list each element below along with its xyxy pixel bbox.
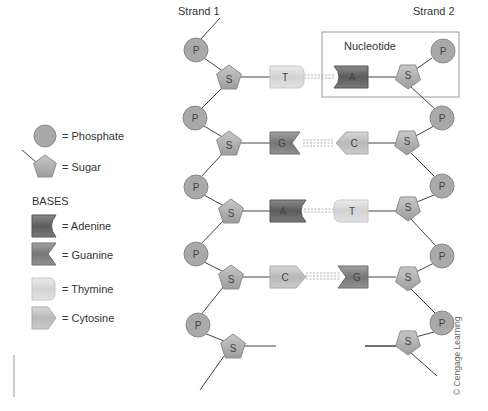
sugar-icon: S — [217, 65, 242, 89]
cytosine-icon: C — [270, 266, 306, 288]
strand2-label: Strand 2 — [413, 5, 455, 17]
legend-sugar: = Sugar — [22, 150, 101, 177]
phosphate-icon: P — [430, 311, 454, 335]
svg-text:A: A — [349, 72, 356, 83]
svg-text:P: P — [439, 113, 446, 124]
sugar-icon: S — [221, 334, 246, 358]
svg-text:S: S — [405, 202, 412, 213]
thymine-icon: T — [270, 66, 304, 88]
sugar-icon: S — [396, 197, 421, 221]
svg-text:S: S — [228, 208, 235, 219]
svg-text:S: S — [230, 343, 237, 354]
legend-phosphate: = Phosphate — [34, 125, 124, 147]
svg-text:= Phosphate: = Phosphate — [62, 130, 124, 142]
svg-text:P: P — [440, 46, 447, 57]
sugar-icon: S — [219, 265, 244, 289]
svg-text:S: S — [404, 136, 411, 147]
svg-text:S: S — [228, 274, 235, 285]
thymine-icon: T — [334, 200, 368, 222]
guanine-icon: G — [270, 132, 300, 154]
svg-text:P: P — [195, 320, 202, 331]
strand1-phosphates: P P P P P — [183, 38, 210, 337]
sugar-icon: S — [396, 65, 421, 89]
svg-text:S: S — [405, 336, 412, 347]
svg-text:= Adenine: = Adenine — [62, 220, 111, 232]
legend-guanine: = Guanine — [32, 243, 113, 265]
legend-cytosine: = Cytosine — [32, 307, 114, 329]
svg-text:P: P — [192, 113, 199, 124]
hydrogen-bonds — [303, 75, 340, 279]
sugar-icon: S — [396, 267, 421, 291]
bases-heading: BASES — [32, 195, 69, 207]
sugar-icon: S — [396, 331, 421, 355]
phosphate-icon: P — [183, 106, 207, 130]
svg-text:G: G — [353, 272, 361, 283]
svg-text:A: A — [280, 206, 287, 217]
svg-text:T: T — [282, 72, 288, 83]
phosphate-icon: P — [430, 174, 454, 198]
svg-text:= Cytosine: = Cytosine — [62, 312, 114, 324]
sugar-icon — [34, 155, 57, 177]
svg-text:T: T — [349, 206, 355, 217]
adenine-icon: A — [270, 200, 306, 222]
strand1-sugars: S S S S S — [217, 65, 246, 358]
base-pair-3: A T — [270, 200, 368, 222]
phosphate-icon: P — [184, 242, 208, 266]
svg-text:S: S — [405, 70, 412, 81]
nucleotide-label: Nucleotide — [344, 40, 396, 52]
svg-text:S: S — [226, 140, 233, 151]
svg-text:= Sugar: = Sugar — [62, 161, 101, 173]
adenine-icon — [32, 215, 56, 237]
svg-text:C: C — [281, 272, 288, 283]
sugar-icon: S — [219, 199, 244, 223]
strand2-phosphates: P P P P P — [430, 39, 455, 335]
phosphate-icon: P — [184, 175, 208, 199]
svg-text:P: P — [193, 45, 200, 56]
strand2-backbone — [365, 58, 437, 376]
cytosine-icon — [32, 307, 56, 329]
svg-text:P: P — [439, 181, 446, 192]
svg-text:G: G — [278, 138, 286, 149]
legend-thymine: = Thymine — [32, 278, 113, 300]
svg-text:P: P — [439, 318, 446, 329]
base-pair-4: C G — [270, 266, 368, 288]
svg-text:= Thymine: = Thymine — [62, 283, 113, 295]
sugar-icon: S — [395, 131, 420, 155]
phosphate-icon: P — [430, 106, 454, 130]
cytosine-icon: C — [336, 132, 368, 154]
guanine-icon — [32, 243, 56, 265]
phosphate-icon: P — [430, 244, 454, 268]
phosphate-icon: P — [186, 313, 210, 337]
svg-text:C: C — [350, 138, 357, 149]
adenine-icon: A — [334, 66, 368, 88]
phosphate-icon — [34, 125, 56, 147]
svg-text:P: P — [439, 251, 446, 262]
svg-text:S: S — [226, 74, 233, 85]
strand1-label: Strand 1 — [178, 5, 220, 17]
legend-adenine: = Adenine — [32, 215, 111, 237]
phosphate-icon: P — [184, 38, 208, 62]
base-pair-1: T A — [270, 66, 368, 88]
svg-text:= Guanine: = Guanine — [62, 249, 113, 261]
sugar-icon: S — [217, 131, 242, 155]
dna-diagram: Strand 1 Strand 2 Nucleotide — [0, 0, 488, 411]
strand2-sugars: S S S S S — [395, 65, 421, 355]
legend: = Phosphate = Sugar BASES = Adenine = Gu… — [22, 125, 124, 329]
svg-text:P: P — [193, 182, 200, 193]
phosphate-icon: P — [431, 39, 455, 63]
svg-text:S: S — [405, 272, 412, 283]
copyright-credit: © Cengage Learning — [452, 316, 462, 395]
guanine-icon: G — [338, 266, 368, 288]
thymine-icon — [32, 278, 55, 300]
svg-text:P: P — [193, 249, 200, 260]
